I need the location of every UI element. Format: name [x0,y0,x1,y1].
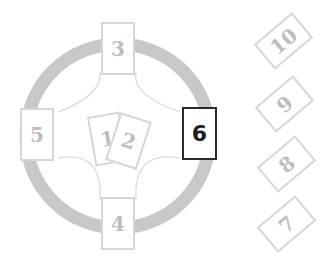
card-number: 7 [273,210,299,237]
card-number: 2 [118,127,139,154]
card-position-3[interactable]: 3 [101,22,135,75]
card-number: 6 [192,121,207,146]
celtic-cross-diagram: 12345678910 [0,0,332,266]
card-position-6[interactable]: 6 [182,107,217,160]
card-number: 9 [271,90,297,117]
card-position-5[interactable]: 5 [20,108,54,161]
card-number: 4 [111,212,125,236]
card-number: 3 [111,37,125,61]
card-position-4[interactable]: 4 [101,197,135,250]
card-number: 8 [273,150,299,177]
card-number: 5 [30,123,44,147]
